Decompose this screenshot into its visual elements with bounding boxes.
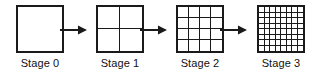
grid-cell <box>211 40 222 51</box>
stage-label-3: Stage 3 <box>241 56 321 70</box>
grid-cell <box>200 29 211 40</box>
grid-cell <box>189 40 200 51</box>
grid-cell <box>98 29 120 51</box>
grid-cell <box>98 7 120 29</box>
stage-group-0: Stage 0 <box>0 0 80 77</box>
grid-cell <box>178 18 189 29</box>
grid-cell <box>189 18 200 29</box>
stage-label-1: Stage 1 <box>80 56 160 70</box>
stage-group-1: Stage 1 <box>80 0 160 77</box>
grid-cell <box>200 40 211 51</box>
grid-cell <box>211 7 222 18</box>
stage-square-1 <box>96 5 144 53</box>
stage-group-2: Stage 2 <box>160 0 240 77</box>
grid-cell <box>189 29 200 40</box>
stage-square-3 <box>257 5 305 53</box>
grid-cell <box>178 40 189 51</box>
stage-label-2: Stage 2 <box>160 56 240 70</box>
stage-group-3: Stage 3 <box>241 0 321 77</box>
grid-cell <box>200 18 211 29</box>
stage-square-0 <box>16 5 64 53</box>
stage-square-2 <box>176 5 224 53</box>
grid-cell <box>18 7 62 51</box>
grid-cell <box>178 7 189 18</box>
grid-cell <box>178 29 189 40</box>
stage-sequence-figure: Stage 0 Stage 1 Stage 2 Stage 3 <box>0 0 323 77</box>
grid-cell <box>298 46 304 52</box>
grid-cell <box>200 7 211 18</box>
stage-label-0: Stage 0 <box>0 56 80 70</box>
grid-cell <box>120 29 142 51</box>
grid-cell <box>120 7 142 29</box>
grid-cell <box>189 7 200 18</box>
